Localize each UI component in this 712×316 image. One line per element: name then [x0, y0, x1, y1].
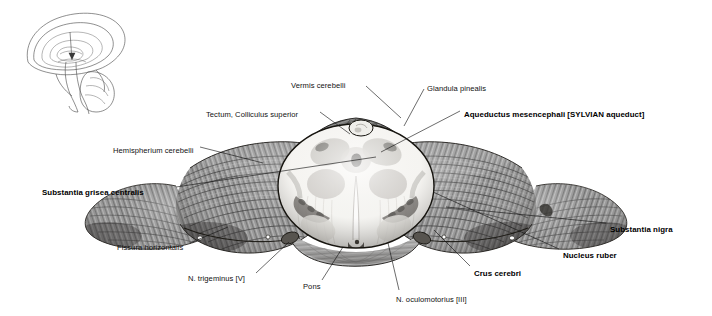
label-fissura-horizontalis: Fissura horizontalis: [117, 244, 183, 252]
illustration-canvas: [0, 0, 712, 316]
label-glandula-pinealis: Glandula pinealis: [427, 85, 486, 93]
label-tectum-colliculus: Tectum, Colliculus superior: [206, 111, 298, 119]
label-nucleus-ruber: Nucleus ruber: [563, 252, 617, 260]
glandula-pinealis: [349, 120, 373, 136]
label-crus-cerebri: Crus cerebri: [474, 270, 521, 278]
label-pons: Pons: [303, 283, 321, 291]
label-vermis-cerebelli: Vermis cerebelli: [291, 82, 345, 90]
label-n-oculomotorius: N. oculomotorius [III]: [396, 296, 467, 304]
label-aqueductus-mesencephali: Aqueductus mesencephali [SYLVIAN aqueduc…: [464, 111, 644, 119]
label-hemispherium-cerebelli: Hemispherium cerebelli: [113, 147, 193, 155]
anatomical-figure: Vermis cerebelliGlandula pinealisTectum,…: [0, 0, 712, 316]
label-substantia-grisea: Substantia grisea centralis: [42, 189, 144, 197]
label-substantia-nigra: Substantia nigra: [610, 226, 673, 234]
label-n-trigeminus: N. trigeminus [V]: [188, 275, 245, 283]
